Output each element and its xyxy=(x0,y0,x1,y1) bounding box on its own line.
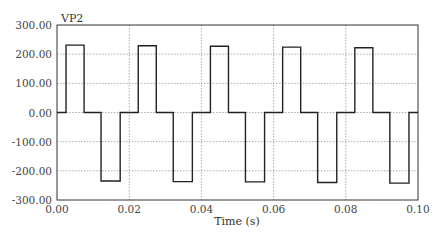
y-tick-label: 300.00 xyxy=(15,19,52,31)
x-tick-label: 0.00 xyxy=(45,203,68,215)
y-tick-label: 100.00 xyxy=(15,77,52,89)
x-axis-label: Time (s) xyxy=(214,215,260,228)
y-tick-label: -100.00 xyxy=(12,136,52,148)
x-axis-tick-labels: 0.000.020.040.060.080.10 xyxy=(45,203,429,215)
y-tick-label: 200.00 xyxy=(15,48,52,60)
x-tick-label: 0.08 xyxy=(334,203,357,215)
x-tick-label: 0.10 xyxy=(406,203,429,215)
x-tick-label: 0.02 xyxy=(118,203,141,215)
y-axis-tick-labels: 300.00200.00100.000.00-100.00-200.00-300… xyxy=(12,19,52,206)
y-tick-label: 0.00 xyxy=(29,107,52,119)
y-tick-label: -200.00 xyxy=(12,165,52,177)
series-label: VP2 xyxy=(60,12,83,25)
vp2-waveform-chart: 300.00200.00100.000.00-100.00-200.00-300… xyxy=(0,0,439,242)
x-tick-label: 0.04 xyxy=(190,203,214,215)
x-tick-label: 0.06 xyxy=(262,203,286,215)
vp2-trace xyxy=(57,45,418,183)
